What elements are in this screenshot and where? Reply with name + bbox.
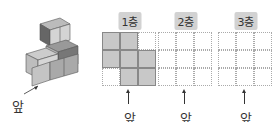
empty-cell (236, 68, 254, 86)
filled-cell (138, 50, 156, 68)
isometric-cube-figure (18, 14, 98, 94)
empty-cell (254, 68, 272, 86)
filled-cell (120, 32, 138, 50)
front-label: 앞 (240, 108, 252, 122)
filled-cell (102, 50, 120, 68)
floor-label: 1층 (119, 12, 142, 30)
empty-cell (218, 32, 236, 50)
floor-grid (102, 32, 156, 86)
empty-cell (236, 32, 254, 50)
front-label: 앞 (124, 108, 136, 122)
empty-cell (236, 50, 254, 68)
empty-cell (102, 68, 120, 86)
front-label: 앞 (12, 96, 24, 115)
floor-label: 3층 (235, 12, 258, 30)
empty-cell (176, 32, 194, 50)
empty-cell (254, 32, 272, 50)
empty-cell (158, 32, 176, 50)
empty-cell (158, 50, 176, 68)
up-arrow-icon (244, 92, 245, 104)
empty-cell (176, 68, 194, 86)
up-arrow-icon (184, 92, 185, 104)
up-arrow-icon (128, 92, 129, 104)
empty-cell (218, 68, 236, 86)
floor-grid (218, 32, 272, 86)
filled-cell (120, 50, 138, 68)
filled-cell (120, 68, 138, 86)
empty-cell (194, 50, 212, 68)
floor-grid (158, 32, 212, 86)
front-label: 앞 (180, 108, 192, 122)
floor-label: 2층 (175, 12, 198, 30)
empty-cell (218, 50, 236, 68)
empty-cell (254, 50, 272, 68)
front-arrow-icon (22, 84, 42, 96)
empty-cell (176, 50, 194, 68)
filled-cell (138, 68, 156, 86)
empty-cell (194, 68, 212, 86)
empty-cell (194, 32, 212, 50)
empty-cell (158, 68, 176, 86)
filled-cell (102, 32, 120, 50)
empty-cell (138, 32, 156, 50)
